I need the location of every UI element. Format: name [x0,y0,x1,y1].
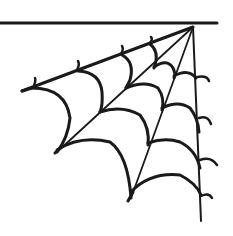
radial-thread-1 [22,27,193,91]
outer-arc-1 [32,88,70,152]
hook-5 [197,77,209,82]
spider-web-illustration: corner spider web [0,0,233,236]
hook-4 [150,37,152,43]
outer-arc-2 [57,140,131,198]
inner-arc-6 [174,72,196,78]
mid-arc-3 [148,140,200,168]
hook-7 [200,159,217,165]
radial-thread-2 [57,27,193,152]
hook-6 [199,117,211,124]
inner-arc-1 [122,55,131,88]
radial-thread-3 [131,27,193,198]
mid-arc-1 [78,71,102,112]
hook-8 [201,194,212,198]
inner-arc-2 [126,84,163,110]
tip-left [22,88,32,91]
hook-3 [121,46,123,54]
outer-arc-3 [131,175,201,195]
hook-2 [77,61,79,70]
inner-arc-3 [162,104,199,132]
spider-web-icon [0,0,233,236]
mid-arc-2 [100,109,148,145]
hook-1 [34,78,35,86]
inner-arc-5 [154,63,175,78]
